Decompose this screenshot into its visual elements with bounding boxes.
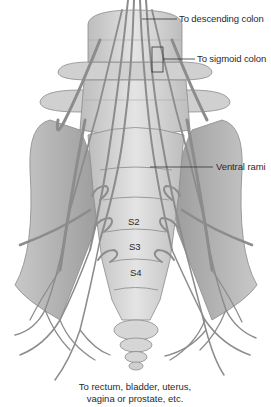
label-sigmoid-colon: To sigmoid colon bbox=[197, 54, 266, 64]
coccyx bbox=[114, 320, 158, 370]
caption-line-1: To rectum, bladder, uterus, bbox=[40, 381, 230, 393]
caption: To rectum, bladder, uterus, vagina or pr… bbox=[40, 381, 230, 405]
label-ventral-rami: Ventral rami bbox=[216, 162, 266, 172]
label-s3: S3 bbox=[129, 242, 141, 252]
label-s4: S4 bbox=[130, 268, 142, 278]
pelvis-right bbox=[176, 120, 257, 320]
anatomy-diagram: To descending colon To sigmoid colon Ven… bbox=[0, 0, 271, 407]
label-descending-colon: To descending colon bbox=[179, 14, 264, 24]
caption-line-2: vagina or prostate, etc. bbox=[40, 393, 230, 405]
pelvis-left bbox=[15, 120, 96, 320]
label-s2: S2 bbox=[128, 217, 140, 227]
